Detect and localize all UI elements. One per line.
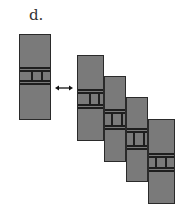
double-arrow-icon <box>0 0 180 223</box>
